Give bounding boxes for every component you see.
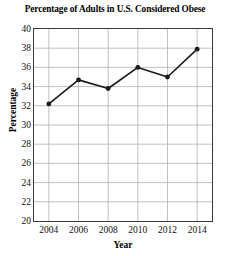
horizontal-gridlines: [34, 48, 212, 202]
data-point-2006: [76, 77, 81, 82]
data-point-2014: [195, 47, 200, 52]
y-tick-20: 20: [11, 216, 31, 226]
y-tick-40: 40: [11, 24, 31, 34]
x-tick-2014: 2014: [180, 225, 214, 235]
chart-title: Percentage of Adults in U.S. Considered …: [0, 4, 230, 14]
x-axis-label: Year: [33, 240, 213, 250]
data-point-2008: [106, 86, 111, 91]
data-point-2012: [165, 75, 170, 80]
chart-figure: Percentage of Adults in U.S. Considered …: [0, 0, 230, 256]
line-chart-svg: [34, 29, 212, 221]
x-axis-tick-labels: 200420062008201020122014: [33, 225, 213, 239]
y-tick-26: 26: [11, 158, 31, 168]
y-tick-38: 38: [11, 43, 31, 53]
data-point-2010: [135, 65, 140, 70]
y-axis-label: Percentage: [8, 70, 18, 150]
data-line: [49, 49, 197, 104]
data-point-2004: [46, 101, 51, 106]
plot-area: [33, 28, 213, 222]
y-tick-24: 24: [11, 178, 31, 188]
y-tick-22: 22: [11, 197, 31, 207]
data-point-markers: [46, 47, 199, 107]
